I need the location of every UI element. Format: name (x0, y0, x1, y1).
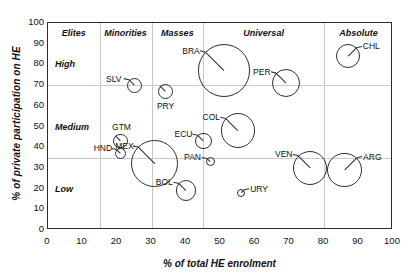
point-label-chl: CHL (363, 42, 380, 51)
bubble-pan[interactable] (206, 157, 215, 166)
x-axis-title: % of total HE enrolment (47, 258, 392, 269)
bubble-bra[interactable] (198, 44, 250, 96)
x-tick-label: 40 (170, 236, 200, 246)
bubble-chl[interactable] (336, 44, 360, 68)
point-label-per: PER (253, 68, 270, 77)
point-label-ven: VEN (275, 150, 292, 159)
point-label-hnd: HND (94, 144, 112, 153)
band-label-absolute: Absolute (309, 28, 409, 38)
gridline-vertical (152, 23, 153, 228)
x-tick-label: 0 (32, 236, 62, 246)
gridline-vertical (324, 23, 325, 228)
gridline-vertical (100, 23, 101, 228)
band-label-masses: Masses (127, 28, 227, 38)
bubble-slv[interactable] (127, 78, 142, 93)
bubble-bol[interactable] (176, 180, 197, 201)
band-label-universal: Universal (214, 28, 314, 38)
bubble-ecu[interactable] (195, 133, 212, 150)
bubble-chart: % of private participation on HE 0102030… (0, 0, 411, 280)
point-label-mex: MEX (115, 142, 133, 151)
point-label-gtm: GTM (112, 123, 131, 132)
bubble-ury[interactable] (237, 189, 245, 197)
point-label-pan: PAN (184, 153, 201, 162)
x-tick-label: 60 (239, 236, 269, 246)
point-label-ury: URY (250, 185, 268, 194)
bubble-arg[interactable] (327, 153, 362, 188)
x-tick-label: 10 (67, 236, 97, 246)
bubble-col[interactable] (221, 113, 256, 148)
x-tick-label: 30 (136, 236, 166, 246)
point-label-bol: BOL (156, 178, 173, 187)
bubble-ven[interactable] (293, 151, 328, 186)
point-label-arg: ARG (363, 153, 381, 162)
point-label-col: COL (203, 113, 220, 122)
point-label-ecu: ECU (174, 130, 192, 139)
x-tick-label: 80 (308, 236, 338, 246)
x-tick-label: 90 (343, 236, 373, 246)
zone-label-medium: Medium (55, 122, 89, 132)
x-tick-label: 50 (205, 236, 235, 246)
bubble-pry[interactable] (158, 84, 173, 99)
bubble-per[interactable] (272, 69, 300, 97)
x-tick-label: 70 (274, 236, 304, 246)
zone-label-low: Low (55, 184, 73, 194)
x-tick-label: 20 (101, 236, 131, 246)
x-tick-label: 100 (377, 236, 407, 246)
plot-area: ElitesMinoritiesMassesUniversalAbsoluteH… (47, 22, 392, 229)
point-label-slv: SLV (106, 75, 121, 84)
point-label-pry: PRY (157, 102, 174, 111)
point-label-bra: BRA (182, 47, 199, 56)
zone-label-high: High (55, 59, 75, 69)
